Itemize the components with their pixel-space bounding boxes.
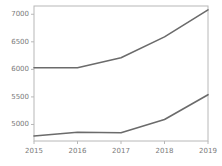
y-tick-label: 6000 (7, 65, 29, 73)
y-tick-label: 7000 (7, 10, 29, 18)
y-tick-label: 5000 (7, 120, 29, 128)
y-tick-label: 5500 (7, 93, 29, 101)
x-tick-label: 2015 (22, 147, 46, 155)
series-line-lower (34, 95, 208, 136)
x-tick-label: 2017 (109, 147, 133, 155)
series-group (34, 10, 208, 136)
chart-canvas (0, 0, 222, 166)
series-line-upper (34, 10, 208, 68)
x-tick-label: 2016 (66, 147, 90, 155)
x-tick-label: 2019 (196, 147, 220, 155)
y-tick-label: 6500 (7, 38, 29, 46)
x-tick-label: 2018 (153, 147, 177, 155)
line-chart: 50005500600065007000 2015201620172018201… (0, 0, 222, 166)
